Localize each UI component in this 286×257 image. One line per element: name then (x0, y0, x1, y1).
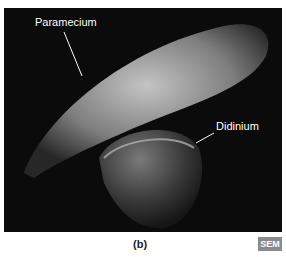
sem-micrograph: Paramecium Didinium (4, 8, 282, 232)
paramecium-label: Paramecium (35, 16, 97, 28)
didinium-pointer (196, 133, 214, 143)
didinium-label: Didinium (216, 120, 259, 132)
sem-badge: SEM (258, 237, 282, 251)
paramecium-pointer (64, 32, 82, 76)
figure-caption: (b) (133, 238, 147, 250)
